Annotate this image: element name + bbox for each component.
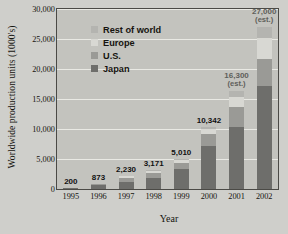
- bar-segment: [229, 97, 244, 107]
- x-axis-tick-label: 1998: [139, 192, 169, 201]
- bar-value-label: 10,342: [180, 117, 238, 125]
- x-axis-tick-label: 2000: [194, 192, 224, 201]
- gridline: [57, 129, 278, 130]
- bar-segment: [174, 169, 189, 189]
- x-axis-title: Year: [56, 213, 282, 224]
- x-axis-tick-label: 1996: [83, 192, 113, 201]
- bar-segment: [229, 127, 244, 189]
- y-axis-tick-label: 10,000: [3, 125, 55, 134]
- chart-figure: Worldwide production units (1000's) Year…: [0, 0, 288, 234]
- legend-swatch-icon: [91, 65, 98, 72]
- chart-legend: Rest of worldEuropeU.S.Japan: [91, 23, 161, 75]
- bar-segment: [119, 182, 134, 189]
- legend-label: Rest of world: [103, 25, 161, 35]
- stacked-bar: [257, 27, 272, 189]
- gridline: [57, 99, 278, 100]
- y-axis-tick-label: 15,000: [3, 95, 55, 104]
- estimate-note: (est.): [235, 16, 278, 24]
- bar-segment: [257, 86, 272, 189]
- legend-swatch-icon: [91, 52, 98, 59]
- y-axis-tick-label: 20,000: [3, 65, 55, 74]
- bar-value-label: 873: [69, 174, 127, 182]
- stacked-bar: [201, 127, 216, 189]
- bar-segment: [257, 38, 272, 59]
- legend-item: Rest of world: [91, 23, 161, 36]
- legend-item: Japan: [91, 62, 161, 75]
- bar-segment: [63, 188, 78, 189]
- legend-item: U.S.: [91, 49, 161, 62]
- y-axis-tick-label: 5,000: [3, 155, 55, 164]
- bar-value-label: 3,171: [125, 160, 183, 168]
- legend-label: Europe: [103, 38, 135, 48]
- bar-segment: [201, 134, 216, 147]
- bar-segment: [146, 178, 161, 189]
- estimate-note: (est.): [208, 80, 266, 88]
- x-axis-tick-label: 2002: [249, 192, 279, 201]
- x-axis-tick-label: 1997: [111, 192, 141, 201]
- x-axis-tick-label: 1995: [56, 192, 86, 201]
- bar-value-label: 16,300(est.): [208, 72, 266, 88]
- legend-item: Europe: [91, 36, 161, 49]
- x-axis-tick-label: 2001: [222, 192, 252, 201]
- legend-label: U.S.: [103, 51, 121, 61]
- bar-value-label: 5,010: [152, 149, 210, 157]
- y-axis-tick-label: 25,000: [3, 35, 55, 44]
- legend-swatch-icon: [91, 39, 98, 46]
- stacked-bar: [229, 91, 244, 189]
- legend-label: Japan: [103, 64, 130, 74]
- plot-area: 2008732,2303,1715,01010,34216,300(est.)2…: [56, 8, 279, 190]
- y-axis-tick-label: 30,000: [3, 5, 55, 14]
- bar-segment: [257, 27, 272, 38]
- stacked-bar: [63, 188, 78, 189]
- legend-swatch-icon: [91, 26, 98, 33]
- x-axis-tick-label: 1999: [166, 192, 196, 201]
- bar-value-label: 27,000(est.): [235, 9, 278, 24]
- y-axis-tick-label: 0: [3, 185, 55, 194]
